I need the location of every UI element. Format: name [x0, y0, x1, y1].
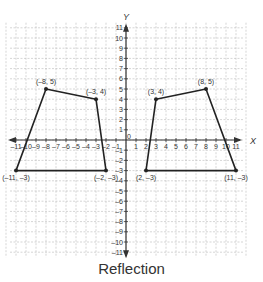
x-tick-label: –9: [32, 143, 40, 150]
x-tick-label: –3: [92, 143, 100, 150]
x-tick-label: –7: [52, 143, 60, 150]
y-tick-label: 11: [116, 24, 123, 31]
coordinate-plane: XY –11–10–9–8–7–6–5–4–3–2–11234567891011…: [0, 0, 263, 282]
y-tick-label: 6: [119, 75, 123, 82]
x-tick-label: 1: [134, 143, 138, 150]
x-tick-label: –8: [42, 143, 50, 150]
x-tick-label: 4: [164, 143, 168, 150]
y-tick-label: 2: [119, 116, 123, 123]
y-tick-label: 10: [115, 35, 123, 42]
x-tick-label: 9: [214, 143, 218, 150]
y-tick-label: 4: [119, 96, 123, 103]
x-tick-label: –6: [62, 143, 70, 150]
y-axis-down-arrow-icon: [123, 250, 129, 258]
vertex-label: (–3, 4): [86, 88, 106, 96]
y-tick-label: 5: [119, 86, 123, 93]
y-tick-label: 3: [119, 106, 123, 113]
vertex-label: (11, –3): [224, 174, 248, 182]
vertex-point: [204, 87, 208, 91]
vertex-label: (2, –3): [136, 174, 156, 182]
right-trapezoid: [146, 89, 236, 171]
x-tick-label: 7: [194, 143, 198, 150]
x-tick-label: 3: [154, 143, 158, 150]
y-tick-label: –6: [115, 198, 123, 205]
vertex-label: (–11, –3): [2, 174, 30, 182]
y-tick-label: 8: [119, 55, 123, 62]
y-tick-label: –11: [112, 249, 123, 256]
vertex-point: [44, 87, 48, 91]
x-tick-label: –4: [82, 143, 90, 150]
y-axis-label: Y: [123, 12, 130, 22]
vertex-point: [94, 97, 98, 101]
vertex-label: (–2, –3): [94, 174, 118, 182]
y-tick-label: –2: [115, 157, 123, 164]
y-tick-label: –10: [111, 239, 123, 246]
origin-label: 0: [127, 133, 131, 140]
vertex-label: (8, 5): [198, 78, 214, 86]
vertex-point: [14, 169, 18, 173]
x-tick-label: 6: [184, 143, 188, 150]
y-tick-label: –5: [115, 188, 123, 195]
chart-caption: Reflection: [0, 260, 263, 277]
vertex-label: (–8, 5): [36, 78, 56, 86]
y-tick-label: –7: [115, 208, 123, 215]
x-tick-label: 8: [204, 143, 208, 150]
x-axis-label: X: [249, 136, 257, 146]
x-tick-label: 5: [174, 143, 178, 150]
y-tick-label: 1: [119, 126, 123, 133]
vertex-point: [144, 169, 148, 173]
vertex-label: (3, 4): [148, 88, 164, 96]
y-tick-label: 9: [119, 45, 123, 52]
vertex-point: [104, 169, 108, 173]
y-tick-label: 7: [119, 65, 123, 72]
x-tick-label: 2: [144, 143, 148, 150]
vertex-point: [154, 97, 158, 101]
y-tick-label: –8: [115, 218, 123, 225]
y-tick-label: –9: [115, 228, 123, 235]
x-tick-label: 11: [232, 143, 239, 150]
y-tick-label: –1: [115, 147, 123, 154]
vertex-point: [234, 169, 238, 173]
x-tick-label: –5: [72, 143, 80, 150]
